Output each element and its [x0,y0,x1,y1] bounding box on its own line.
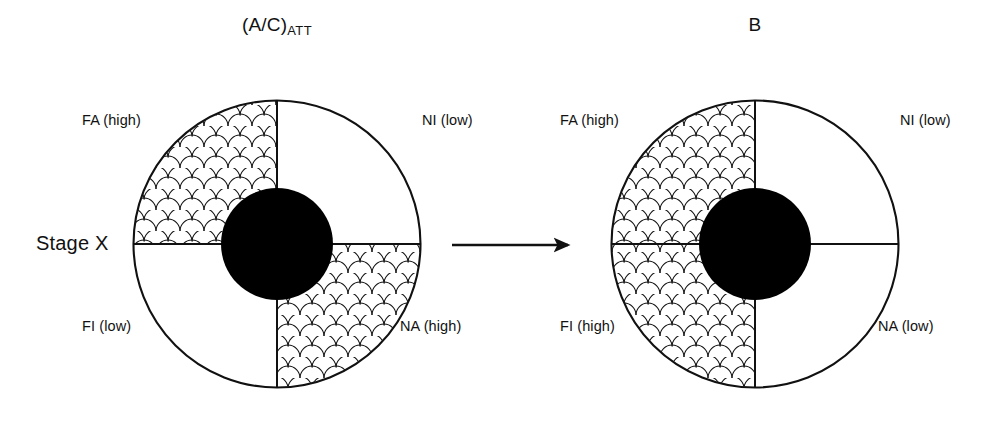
quadrant-label-left-ni: NI (low) [422,112,473,128]
quadrant-label-left-fi: FI (low) [82,318,131,334]
figure-canvas [0,0,1000,421]
core-circle-left [221,188,333,300]
quadrant-label-left-fa: FA (high) [82,112,141,128]
stage-label: Stage X [36,232,109,255]
panel-title-left: (A/C)ATT [242,14,312,36]
panel-title-right: B [749,14,762,36]
panel-title-right-main: B [749,14,762,35]
core-circle-right [699,188,811,300]
panel-title-left-subscript: ATT [287,23,312,38]
panel-title-left-main: (A/C) [242,14,287,35]
quadrant-label-right-na: NA (low) [878,318,934,334]
panel-left-circle [120,88,435,402]
quadrant-label-left-na: NA (high) [400,318,461,334]
panel-right-circle [598,88,899,402]
quadrant-label-right-fa: FA (high) [560,112,619,128]
quadrant-label-right-ni: NI (low) [900,112,951,128]
quadrant-label-right-fi: FI (high) [560,318,615,334]
